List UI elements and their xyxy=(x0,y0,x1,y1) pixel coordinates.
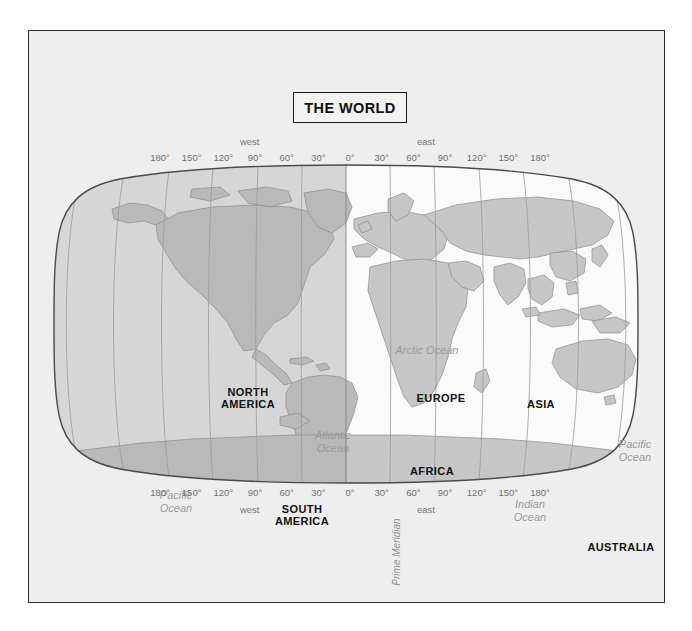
prime-meridian-label: Prime Meridian xyxy=(391,518,402,585)
longitude-bottom-tick-10: 120° xyxy=(467,487,487,498)
longitude-top-tick-11: 150° xyxy=(499,152,519,163)
longitude-bottom-tick-6: 0° xyxy=(345,487,354,498)
map-title-box: THE WORLD xyxy=(293,92,407,123)
longitude-top-tick-10: 120° xyxy=(467,152,487,163)
longitude-top-tick-2: 120° xyxy=(214,152,234,163)
longitude-top-tick-7: 30° xyxy=(374,152,388,163)
longitude-top-tick-6: 0° xyxy=(345,152,354,163)
continent-label-north-america: NORTH AMERICA xyxy=(221,386,275,410)
longitude-bottom-tick-9: 90° xyxy=(438,487,452,498)
longitude-top-tick-3: 90° xyxy=(248,152,262,163)
longitude-top-tick-8: 60° xyxy=(406,152,420,163)
hemisphere-bottom-east: east xyxy=(417,504,435,515)
longitude-bottom-tick-0: 180° xyxy=(150,487,170,498)
longitude-top-tick-0: 180° xyxy=(150,152,170,163)
hemisphere-labels-top: westeast xyxy=(160,136,540,148)
longitude-top-tick-12: 180° xyxy=(530,152,550,163)
longitude-bottom-tick-8: 60° xyxy=(406,487,420,498)
hemisphere-top-east: east xyxy=(417,136,435,147)
hemisphere-labels-bottom: westeast xyxy=(160,504,540,516)
ocean-label-pacific-east: Pacific Ocean xyxy=(619,438,651,464)
longitude-bottom-tick-7: 30° xyxy=(374,487,388,498)
longitude-bottom-tick-5: 30° xyxy=(311,487,325,498)
hemisphere-top-west: west xyxy=(240,136,260,147)
ocean-label-arctic: Arctic Ocean xyxy=(396,344,459,357)
ocean-label-atlantic: Atlantic Ocean xyxy=(315,429,351,455)
continent-label-australia: AUSTRALIA xyxy=(587,541,654,553)
page-title: THE WORLD xyxy=(304,100,395,116)
longitude-bottom-tick-3: 90° xyxy=(248,487,262,498)
longitude-top-tick-4: 60° xyxy=(279,152,293,163)
continent-label-europe: EUROPE xyxy=(417,392,466,404)
longitude-bottom-tick-12: 180° xyxy=(530,487,550,498)
longitude-top-tick-1: 150° xyxy=(182,152,202,163)
longitude-bottom-tick-1: 150° xyxy=(182,487,202,498)
world-map-graphic: NORTH AMERICA SOUTH AMERICA EUROPE AFRIC… xyxy=(52,163,640,485)
hemisphere-bottom-west: west xyxy=(240,504,260,515)
world-map-page: THE WORLD westeast 180°150°120°90°60°30°… xyxy=(0,0,692,631)
longitude-top-tick-5: 30° xyxy=(311,152,325,163)
longitude-bottom-tick-2: 120° xyxy=(214,487,234,498)
continent-label-africa: AFRICA xyxy=(410,465,454,477)
longitude-bottom-tick-11: 150° xyxy=(499,487,519,498)
longitude-bottom-tick-4: 60° xyxy=(279,487,293,498)
continent-label-asia: ASIA xyxy=(527,398,555,410)
longitude-scale-bottom: 180°150°120°90°60°30°0°30°60°90°120°150°… xyxy=(160,487,540,500)
longitude-top-tick-9: 90° xyxy=(438,152,452,163)
